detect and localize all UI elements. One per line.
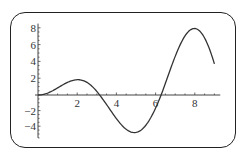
y-tick-label: −4 [24,120,36,132]
x-tick-label: 2 [74,97,80,109]
line-chart: 2468−4−22468 [0,0,245,155]
y-tick-label: 2 [31,72,37,84]
tick-marks [38,28,214,138]
x-tick-label: 4 [114,97,120,109]
axes [35,24,220,138]
tick-labels: 2468−4−22468 [24,22,198,132]
y-tick-label: 8 [31,22,37,34]
y-tick-label: 6 [31,39,37,51]
x-tick-label: 8 [192,97,198,109]
y-tick-label: 4 [31,55,37,67]
data-line [38,29,214,133]
y-tick-label: −2 [24,105,36,117]
